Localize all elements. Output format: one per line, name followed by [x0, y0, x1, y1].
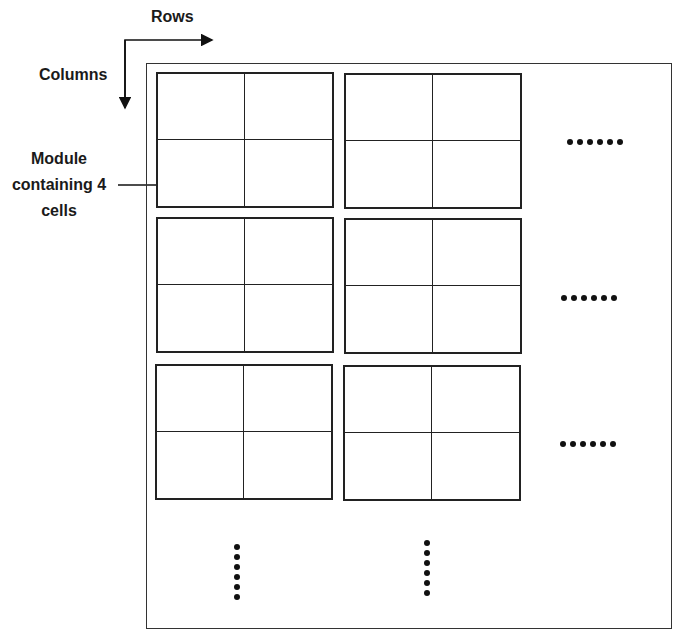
module-label-line2: containing 4: [4, 174, 114, 195]
cell: [157, 366, 244, 432]
rows-label: Rows: [151, 6, 194, 27]
module-r1-c2: [344, 73, 522, 209]
cell: [158, 140, 245, 206]
cell: [433, 141, 520, 207]
columns-label: Columns: [39, 64, 107, 85]
vertical-ellipsis-icon: [424, 540, 430, 596]
cell: [157, 432, 244, 498]
module-r1-c1: [156, 72, 334, 208]
module-label-line1: Module: [4, 148, 114, 169]
cell: [433, 75, 520, 141]
cell: [245, 74, 332, 140]
cell: [158, 285, 245, 351]
cell: [345, 367, 432, 433]
cell: [244, 432, 331, 498]
horizontal-ellipsis-icon: [561, 295, 617, 301]
cell: [346, 141, 433, 207]
cell: [158, 219, 245, 285]
diagram-canvas: Rows Columns Module containing 4 cells: [0, 0, 680, 643]
module-r3-c1: [155, 364, 333, 500]
cell: [346, 75, 433, 141]
cell: [245, 140, 332, 206]
cell: [433, 286, 520, 352]
cell: [244, 366, 331, 432]
cell: [433, 220, 520, 286]
module-r3-c2: [343, 365, 521, 501]
cell: [346, 286, 433, 352]
cell: [158, 74, 245, 140]
horizontal-ellipsis-icon: [567, 139, 623, 145]
cell: [245, 219, 332, 285]
module-r2-c1: [156, 217, 334, 353]
vertical-ellipsis-icon: [234, 544, 240, 600]
module-label-line3: cells: [4, 200, 114, 221]
cell: [432, 433, 519, 499]
module-r2-c2: [344, 218, 522, 354]
cell: [245, 285, 332, 351]
cell: [346, 220, 433, 286]
cell: [432, 367, 519, 433]
horizontal-ellipsis-icon: [560, 441, 616, 447]
cell: [345, 433, 432, 499]
